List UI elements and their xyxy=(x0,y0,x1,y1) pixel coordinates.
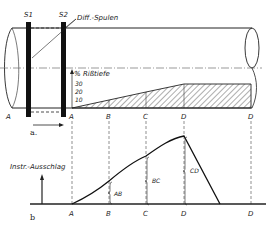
svg-text:D: D xyxy=(248,210,254,218)
instrument-axis-label: Instr.-Ausschlag xyxy=(10,163,66,171)
svg-text:D: D xyxy=(181,113,187,121)
projection-lines xyxy=(72,121,251,204)
svg-text:A: A xyxy=(5,113,11,121)
svg-text:D: D xyxy=(181,210,187,218)
svg-text:AB: AB xyxy=(113,190,122,197)
svg-text:A: A xyxy=(68,210,74,218)
svg-text:B: B xyxy=(106,210,111,218)
coil-s2-label: S2 xyxy=(59,11,68,19)
coil-s1-label: S1 xyxy=(24,11,33,19)
svg-text:B: B xyxy=(106,113,111,121)
svg-text:10: 10 xyxy=(75,96,83,103)
crack-depth-region xyxy=(72,84,251,108)
svg-text:D: D xyxy=(248,113,254,121)
svg-text:BC: BC xyxy=(152,177,161,184)
coil-caption: Diff.-Spulen xyxy=(77,14,118,22)
svg-text:20: 20 xyxy=(75,88,83,95)
svg-text:CD: CD xyxy=(190,167,199,174)
part-b-label: b xyxy=(30,213,35,222)
depth-axis-label: % Rißtiefe xyxy=(74,70,110,78)
eddy-current-diagram: % Rißtiefe 30 20 10 S1 S2 Diff.-Spulen A… xyxy=(0,0,268,227)
svg-text:30: 30 xyxy=(75,80,83,87)
svg-text:C: C xyxy=(143,210,148,218)
part-a-label: a. xyxy=(30,128,37,137)
svg-text:C: C xyxy=(143,113,148,121)
svg-text:A: A xyxy=(68,113,74,121)
